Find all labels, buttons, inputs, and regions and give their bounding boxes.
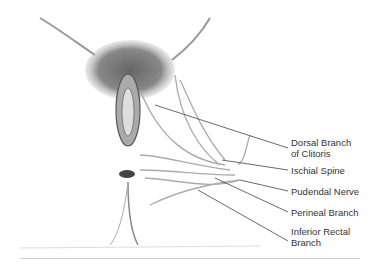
nerve-branches [140, 75, 250, 205]
label-inferior-rectal-branch: Inferior Rectal Branch [291, 226, 350, 248]
bottom-rule [20, 258, 360, 259]
label-perineal-branch: Perineal Branch [291, 207, 359, 218]
leader-lines [155, 105, 288, 241]
anus [119, 170, 135, 178]
anatomy-figure: Dorsal Branch of Clitoris Ischial Spine … [0, 0, 372, 265]
label-dorsal-branch: Dorsal Branch of Clitoris [291, 137, 351, 159]
label-ischial-spine: Ischial Spine [291, 165, 345, 176]
right-thigh-outline [172, 18, 210, 60]
label-pudendal-nerve: Pudendal Nerve [291, 186, 359, 197]
left-thigh-outline [40, 18, 95, 55]
